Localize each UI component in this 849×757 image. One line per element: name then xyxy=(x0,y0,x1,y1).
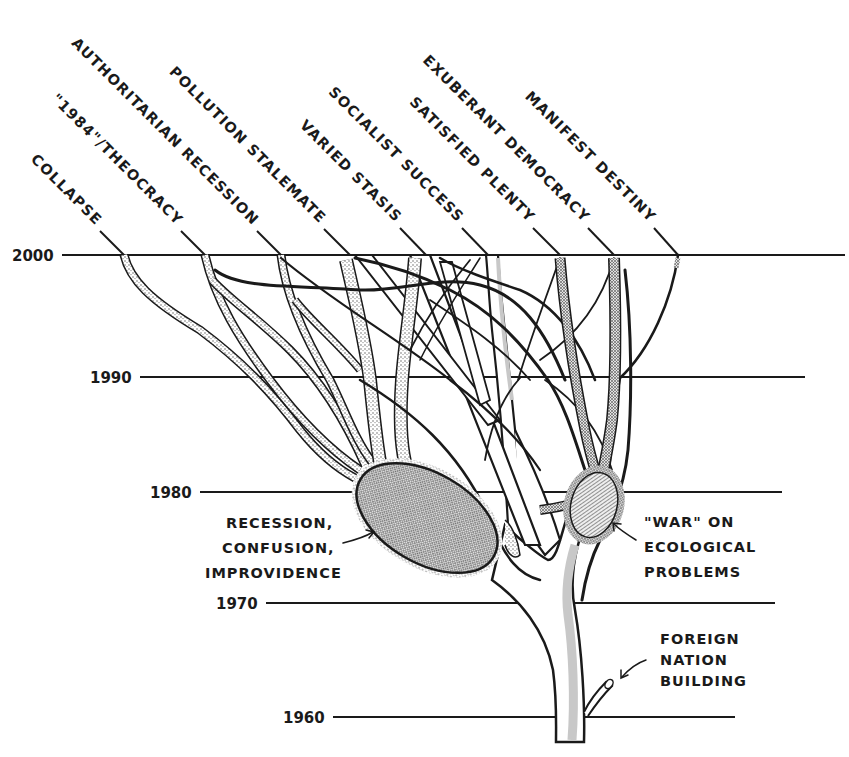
svg-text:NATION: NATION xyxy=(660,652,728,668)
year-label-2000: 2000 xyxy=(12,247,54,265)
annotation-ecology: "WAR" ON ECOLOGICAL PROBLEMS xyxy=(613,514,756,580)
future-label-collapse: COLLAPSE xyxy=(28,151,105,228)
svg-text:"WAR" ON: "WAR" ON xyxy=(644,514,734,530)
arrow-icon xyxy=(614,524,636,540)
annotation-recession: RECESSION, CONFUSION, IMPROVIDENCE xyxy=(205,515,374,581)
future-label-1984-theocracy: "1984"/THEOCRACY xyxy=(49,91,186,228)
svg-text:FOREIGN: FOREIGN xyxy=(660,631,740,647)
recession-branches xyxy=(124,255,415,478)
svg-text:CONFUSION,: CONFUSION, xyxy=(222,540,335,556)
svg-text:RECESSION,: RECESSION, xyxy=(226,515,333,531)
future-label-manifest-destiny: MANIFEST DESTINY xyxy=(522,88,659,225)
year-label-1970: 1970 xyxy=(216,595,258,613)
year-label-1980: 1980 xyxy=(150,484,192,502)
svg-text:IMPROVIDENCE: IMPROVIDENCE xyxy=(205,565,342,581)
svg-text:BUILDING: BUILDING xyxy=(660,673,747,689)
svg-text:ECOLOGICAL: ECOLOGICAL xyxy=(644,539,756,555)
future-labels: COLLAPSE "1984"/THEOCRACY AUTHORITARIAN … xyxy=(28,35,659,229)
year-labels: 2000 1990 1980 1970 1960 xyxy=(12,247,325,727)
year-label-1960: 1960 xyxy=(283,709,325,727)
annotation-foreign: FOREIGN NATION BUILDING xyxy=(621,631,747,689)
leader-lines xyxy=(100,228,678,255)
arrow-icon xyxy=(622,660,646,677)
svg-text:PROBLEMS: PROBLEMS xyxy=(644,564,741,580)
year-label-1990: 1990 xyxy=(90,369,132,387)
futures-tree-diagram: 2000 1990 1980 1970 1960 xyxy=(0,0,849,757)
